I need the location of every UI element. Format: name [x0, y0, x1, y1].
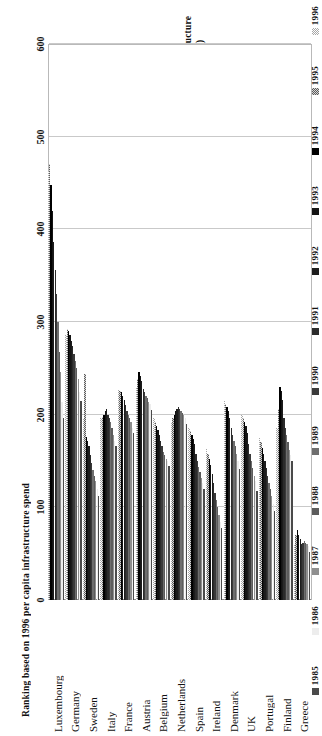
bar: [60, 372, 61, 600]
bar: [186, 424, 187, 600]
bar: [113, 435, 114, 600]
bar: [216, 500, 217, 600]
bar: [130, 422, 131, 600]
bar: [129, 418, 130, 600]
bar: [176, 409, 177, 600]
bar: [124, 400, 125, 600]
bar: [75, 361, 76, 600]
bar: [266, 468, 267, 600]
bar: [231, 428, 232, 600]
bar-group: [223, 45, 241, 600]
bar: [213, 483, 214, 600]
bar: [214, 493, 215, 600]
value-axis-tick: 100: [35, 492, 46, 522]
bar: [247, 433, 248, 600]
bar: [235, 446, 236, 600]
bar: [90, 455, 91, 600]
bar: [224, 400, 225, 600]
bar: [197, 461, 198, 600]
bar: [168, 466, 169, 600]
bar: [103, 415, 104, 600]
legend-label: 1987: [310, 546, 320, 565]
bar: [78, 379, 79, 600]
bar: [273, 504, 274, 600]
category-label: Germany: [69, 604, 81, 732]
bar: [226, 407, 227, 600]
bar: [259, 437, 260, 600]
bar: [263, 454, 264, 600]
bar: [55, 270, 56, 600]
bar: [237, 461, 238, 600]
bar: [76, 368, 77, 600]
bar: [161, 446, 162, 600]
legend-item[interactable]: 1992: [310, 246, 320, 275]
value-axis-tick: 400: [35, 214, 46, 244]
legend-item[interactable]: 1994: [310, 126, 320, 155]
legend-label: 1986: [310, 606, 320, 625]
bar: [268, 483, 269, 600]
bar: [201, 478, 202, 600]
bar: [248, 444, 249, 600]
bar: [254, 476, 255, 600]
bar: [118, 389, 119, 600]
legend-swatch-1988: [312, 508, 319, 515]
bar: [282, 400, 283, 600]
legend-label: 1985: [310, 666, 320, 685]
bar: [274, 511, 275, 600]
legend-label: 1990: [310, 366, 320, 385]
bar: [267, 476, 268, 600]
value-axis-tick-labels: 0100200300400500600: [24, 44, 46, 600]
bar: [233, 441, 234, 600]
legend-item[interactable]: 1988: [310, 486, 320, 515]
bar: [147, 398, 148, 600]
bar: [182, 413, 183, 600]
bar: [132, 428, 133, 600]
bar: [86, 437, 87, 600]
bar: [220, 522, 221, 600]
legend-item[interactable]: 1996: [310, 6, 320, 35]
bar: [144, 392, 145, 600]
bar: [195, 454, 196, 600]
bar: [136, 387, 137, 600]
bar: [149, 404, 150, 600]
legend-item[interactable]: 1989: [310, 426, 320, 455]
category-label: Denmark: [228, 604, 240, 732]
bar: [232, 435, 233, 600]
bar: [68, 331, 69, 600]
legend-item[interactable]: 1986: [310, 606, 320, 635]
bar: [166, 459, 167, 600]
bar: [198, 467, 199, 600]
legend-item[interactable]: 1987: [310, 546, 320, 575]
legend-item[interactable]: 1993: [310, 186, 320, 215]
bar: [286, 435, 287, 600]
bar: [125, 405, 126, 600]
bar: [143, 389, 144, 600]
legend-item[interactable]: 1990: [310, 366, 320, 395]
legend-swatch-1992: [312, 268, 319, 275]
bar: [69, 335, 70, 600]
legend-item[interactable]: 1985: [310, 666, 320, 695]
category-label: Ireland: [210, 604, 222, 732]
legend-label: 1996: [310, 6, 320, 25]
bar: [121, 392, 122, 600]
bar: [63, 418, 64, 600]
bar: [174, 415, 175, 600]
bar-group: [153, 45, 171, 600]
bar: [61, 402, 62, 600]
bar-group: [258, 45, 276, 600]
bar: [114, 441, 115, 600]
bar: [218, 515, 219, 600]
bar: [243, 418, 244, 600]
legend-label: 1995: [310, 66, 320, 85]
legend-item[interactable]: 1991: [310, 306, 320, 335]
bar: [110, 422, 111, 600]
legend-swatch-1996: [312, 28, 319, 35]
bar: [49, 164, 50, 600]
bar: [59, 352, 60, 600]
bar: [84, 374, 85, 600]
bar: [95, 481, 96, 600]
bar: [249, 454, 250, 600]
bar: [264, 461, 265, 600]
legend-item[interactable]: 1995: [310, 66, 320, 95]
bar: [278, 409, 279, 600]
